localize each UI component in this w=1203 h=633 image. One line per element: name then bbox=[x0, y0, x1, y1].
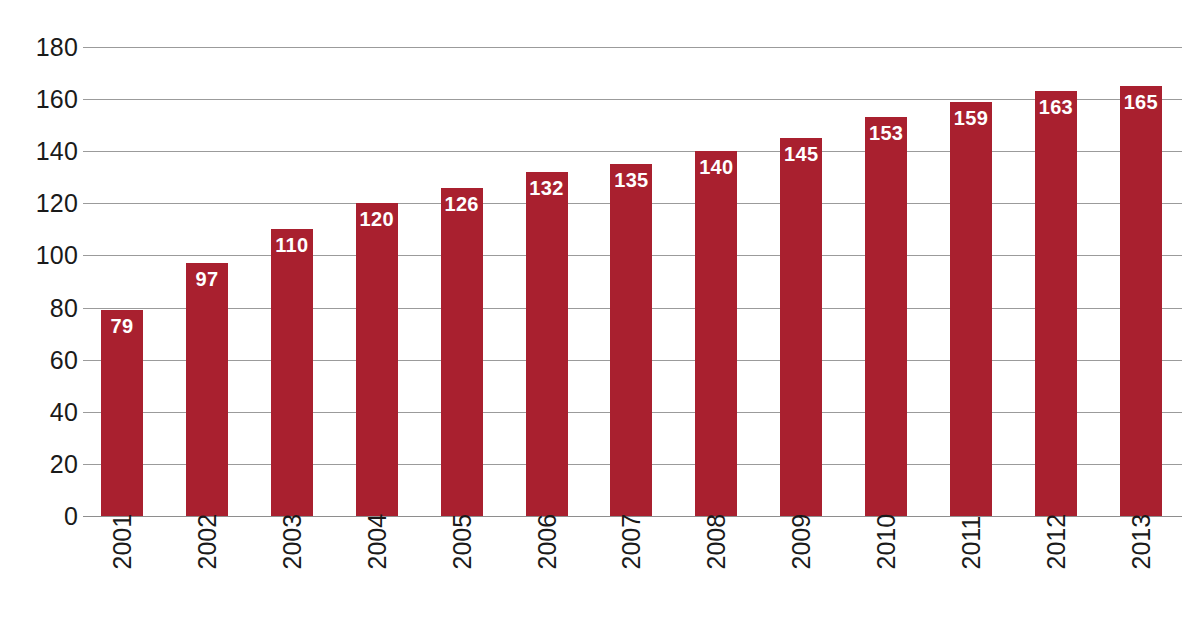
bar-value-label: 110 bbox=[271, 235, 313, 256]
y-axis-tick-label: 140 bbox=[0, 139, 78, 164]
x-axis-tick-label: 2009 bbox=[789, 528, 814, 570]
x-axis-tick-label: 2007 bbox=[619, 528, 644, 570]
bar: 79 bbox=[101, 310, 143, 516]
x-axis: 2001200220032004200520062007200820092010… bbox=[83, 516, 1182, 633]
bar: 163 bbox=[1035, 91, 1077, 516]
bar-value-label: 126 bbox=[441, 194, 483, 215]
bar-value-label: 163 bbox=[1035, 97, 1077, 118]
x-axis-tick-label: 2013 bbox=[1128, 528, 1153, 570]
bar: 97 bbox=[186, 263, 228, 516]
x-axis-tick-label: 2006 bbox=[534, 528, 559, 570]
y-axis: 180160140120100806040200 bbox=[0, 0, 78, 633]
y-axis-tick-label: 100 bbox=[0, 243, 78, 268]
bar: 165 bbox=[1120, 86, 1162, 516]
y-axis-tick-label: 160 bbox=[0, 87, 78, 112]
x-axis-tick-label: 2003 bbox=[279, 528, 304, 570]
bar-value-label: 145 bbox=[780, 144, 822, 165]
bar: 120 bbox=[356, 203, 398, 516]
bar: 132 bbox=[526, 172, 568, 516]
y-axis-tick-label: 80 bbox=[0, 295, 78, 320]
bar-value-label: 120 bbox=[356, 209, 398, 230]
bar: 140 bbox=[695, 151, 737, 516]
bar-value-label: 159 bbox=[950, 108, 992, 129]
y-axis-tick-label: 120 bbox=[0, 191, 78, 216]
bar: 135 bbox=[610, 164, 652, 516]
x-axis-tick-label: 2011 bbox=[959, 528, 984, 570]
bar: 126 bbox=[441, 188, 483, 516]
y-axis-tick-label: 40 bbox=[0, 399, 78, 424]
x-axis-tick-label: 2008 bbox=[704, 528, 729, 570]
x-axis-tick-label: 2012 bbox=[1043, 528, 1068, 570]
bars: 7997110120126132135140145153159163165 bbox=[83, 47, 1182, 516]
bar: 159 bbox=[950, 102, 992, 516]
x-axis-tick-label: 2002 bbox=[194, 528, 219, 570]
y-axis-tick-label: 180 bbox=[0, 35, 78, 60]
x-axis-tick-label: 2005 bbox=[449, 528, 474, 570]
bar-value-label: 140 bbox=[695, 157, 737, 178]
bar-value-label: 97 bbox=[186, 269, 228, 290]
bar: 145 bbox=[780, 138, 822, 516]
bar-value-label: 153 bbox=[865, 123, 907, 144]
y-axis-tick-label: 60 bbox=[0, 347, 78, 372]
x-axis-tick-label: 2010 bbox=[874, 528, 899, 570]
bar: 110 bbox=[271, 229, 313, 516]
bar-value-label: 135 bbox=[610, 170, 652, 191]
y-axis-tick-label: 0 bbox=[0, 504, 78, 529]
plot-area: 7997110120126132135140145153159163165 bbox=[83, 47, 1182, 516]
bar: 153 bbox=[865, 117, 907, 516]
bar-value-label: 79 bbox=[101, 316, 143, 337]
y-axis-tick-label: 20 bbox=[0, 451, 78, 476]
bar-value-label: 132 bbox=[526, 178, 568, 199]
bar-chart: 180160140120100806040200 799711012012613… bbox=[0, 0, 1203, 633]
x-axis-tick-label: 2001 bbox=[110, 528, 135, 570]
x-axis-tick-label: 2004 bbox=[364, 528, 389, 570]
bar-value-label: 165 bbox=[1120, 92, 1162, 113]
